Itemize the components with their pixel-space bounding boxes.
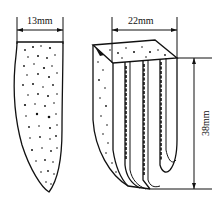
diagram-canvas: 13mm 22mm (0, 0, 222, 207)
width-dimension-right: 22mm (112, 15, 177, 63)
porous-texture-left (22, 45, 58, 185)
height-label-38mm: 38mm (200, 110, 211, 136)
width-dimension-left: 13mm (17, 15, 63, 44)
left-specimen: 13mm (14, 15, 63, 192)
width-label-13mm: 13mm (27, 15, 53, 26)
top-face (93, 40, 177, 63)
width-label-22mm: 22mm (128, 15, 154, 26)
height-dimension-right: 38mm (150, 58, 212, 189)
right-specimen: 22mm 38mm (93, 15, 212, 189)
